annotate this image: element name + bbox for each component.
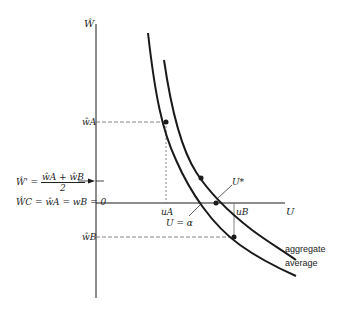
u-a-label: uA xyxy=(161,207,173,217)
w-a-label: ŵA xyxy=(82,117,96,127)
point-aggregate xyxy=(199,176,204,181)
point-w-a xyxy=(164,120,169,125)
arrow-head-icon xyxy=(88,179,95,184)
average-curve xyxy=(148,33,296,276)
u-alpha-label: U = α xyxy=(166,218,193,228)
aggregate-legend: aggregate xyxy=(285,244,326,254)
aggregate-curve xyxy=(164,60,296,260)
x-axis-label: U xyxy=(286,206,294,217)
average-legend: average xyxy=(285,258,318,268)
w-prime-lhs: Ŵ' = xyxy=(16,177,38,187)
u-star-label: U* xyxy=(232,177,244,187)
y-axis-label: Ŵ xyxy=(84,18,94,29)
point-w-b xyxy=(232,235,237,240)
u-star-leader xyxy=(218,185,232,198)
w-prime-fraction: ŵA + ŵB 2 xyxy=(41,172,85,193)
w-prime-numerator: ŵA + ŵB xyxy=(41,172,85,183)
w-prime-denominator: 2 xyxy=(41,183,85,193)
w-b-label: ŵB xyxy=(82,232,96,242)
u-alpha-leader xyxy=(189,205,200,216)
u-b-label: uB xyxy=(236,207,248,217)
w-prime-label: Ŵ' = ŵA + ŵB 2 xyxy=(16,172,85,193)
w-c-label: ŴC = ŵA = wB = 0 xyxy=(16,197,106,207)
point-u-star xyxy=(214,201,219,206)
